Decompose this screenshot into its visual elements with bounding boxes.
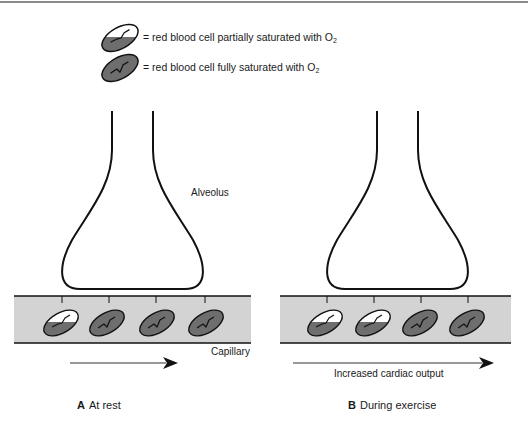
legend-full-icon (97, 49, 142, 87)
flow-arrow-left (70, 357, 178, 369)
cardiac-output-label: Increased cardiac output (334, 368, 444, 380)
alveolus-right (327, 111, 468, 289)
capillary-label: Capillary (211, 346, 250, 358)
panel-b-label: BDuring exercise (348, 399, 436, 411)
panel-a-label: AAt rest (77, 399, 121, 411)
legend-partial-icon (94, 17, 147, 59)
top-rule (0, 1, 528, 3)
alveolus-label: Alveolus (191, 187, 229, 199)
legend-partial-text: = red blood cell partially saturated wit… (143, 31, 337, 47)
alveolus-left (62, 111, 203, 289)
figure: = red blood cell partially saturated wit… (0, 0, 528, 425)
legend-full-text: = red blood cell fully saturated with O2 (143, 61, 319, 77)
